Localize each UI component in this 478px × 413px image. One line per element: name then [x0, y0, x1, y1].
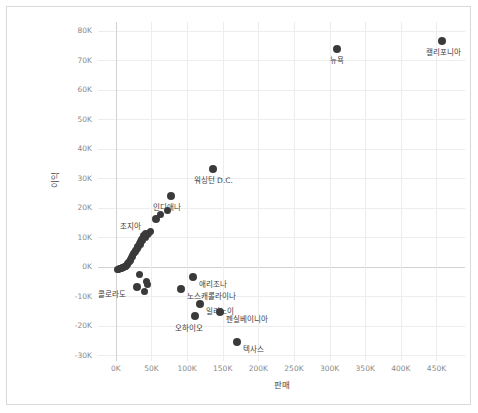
x-tick-label: 200K: [238, 364, 278, 373]
x-tick-label: 450K: [416, 364, 456, 373]
x-axis-ticks: 0K50K100K150K200K250K300K350K400K450K: [98, 364, 465, 376]
data-point[interactable]: [117, 265, 124, 272]
y-tick-label: 20K: [78, 203, 92, 212]
data-point[interactable]: [189, 273, 197, 281]
y-gridline: [98, 90, 465, 91]
y-gridline: [98, 178, 465, 179]
x-axis-title: 판매: [98, 378, 465, 390]
plot-area: 캘리포니아뉴욕워싱턴 D.C.인디애나조지아콜로라도애리조나노스캐롤라이나일리노…: [98, 22, 465, 361]
x-tick-label: 150K: [203, 364, 243, 373]
data-point-label: 뉴욕: [330, 56, 344, 65]
x-gridline: [294, 22, 295, 361]
x-tick-label: 0K: [96, 364, 136, 373]
x-gridline: [187, 22, 188, 361]
x-gridline: [436, 22, 437, 361]
data-point-label: 노스캐롤라이나: [187, 292, 236, 301]
y-gridline: [98, 326, 465, 327]
y-gridline: [98, 149, 465, 150]
data-point-label: 조지아: [120, 222, 141, 231]
data-point[interactable]: [152, 215, 160, 223]
data-point[interactable]: [233, 338, 241, 346]
data-point[interactable]: [196, 300, 204, 308]
y-gridline: [98, 31, 465, 32]
x-gridline: [365, 22, 366, 361]
y-gridline: [98, 355, 465, 356]
y-tick-label: -30K: [75, 351, 92, 360]
data-point[interactable]: [333, 45, 341, 53]
x-tick-label: 250K: [274, 364, 314, 373]
y-gridline: [98, 119, 465, 120]
y-tick-label: 50K: [78, 115, 92, 124]
y-tick-label: 0K: [82, 262, 92, 271]
y-tick-label: 10K: [78, 233, 92, 242]
data-point-label: 캘리포니아: [426, 48, 461, 57]
y-axis-ticks: 80K70K60K50K40K30K20K10K0K-10K-20K-30K: [60, 22, 92, 361]
x-gridline: [258, 22, 259, 361]
y-gridline: [98, 237, 465, 238]
x-tick-label: 350K: [345, 364, 385, 373]
y-axis-title: 이익: [48, 172, 60, 188]
y-tick-label: 40K: [78, 144, 92, 153]
y-tick-label: 60K: [78, 85, 92, 94]
y-gridline: [98, 60, 465, 61]
data-point[interactable]: [191, 312, 199, 320]
x-tick-label: 100K: [167, 364, 207, 373]
data-point-label: 텍사스: [243, 345, 264, 354]
x-tick-label: 300K: [310, 364, 350, 373]
data-point[interactable]: [209, 165, 217, 173]
data-point-label: 오하이오: [175, 324, 203, 333]
scatter-chart: 80K70K60K50K40K30K20K10K0K-10K-20K-30K 캘…: [0, 0, 478, 413]
data-point[interactable]: [177, 285, 185, 293]
data-point[interactable]: [136, 271, 143, 278]
data-point[interactable]: [133, 283, 141, 291]
y-tick-label: 30K: [78, 174, 92, 183]
data-point[interactable]: [167, 192, 175, 200]
x-tick-label: 50K: [131, 364, 171, 373]
y-tick-label: 80K: [78, 26, 92, 35]
data-point-label: 인디애나: [153, 203, 181, 212]
data-point[interactable]: [141, 288, 148, 295]
data-point-label: 워싱턴 D.C.: [194, 176, 233, 185]
y-tick-label: -20K: [75, 321, 92, 330]
x-gridline: [116, 22, 117, 361]
x-gridline: [151, 22, 152, 361]
data-point-label: 콜로라도: [98, 290, 126, 299]
y-tick-label: 70K: [78, 56, 92, 65]
x-gridline: [330, 22, 331, 361]
x-tick-label: 400K: [381, 364, 421, 373]
y-gridline: [98, 296, 465, 297]
x-gridline: [401, 22, 402, 361]
y-tick-label: -10K: [75, 292, 92, 301]
data-point-label: 펜실베이니아: [226, 315, 268, 324]
data-point[interactable]: [438, 37, 446, 45]
y-gridline: [98, 267, 465, 268]
data-point[interactable]: [144, 281, 151, 288]
data-point-label: 애리조나: [199, 280, 227, 289]
